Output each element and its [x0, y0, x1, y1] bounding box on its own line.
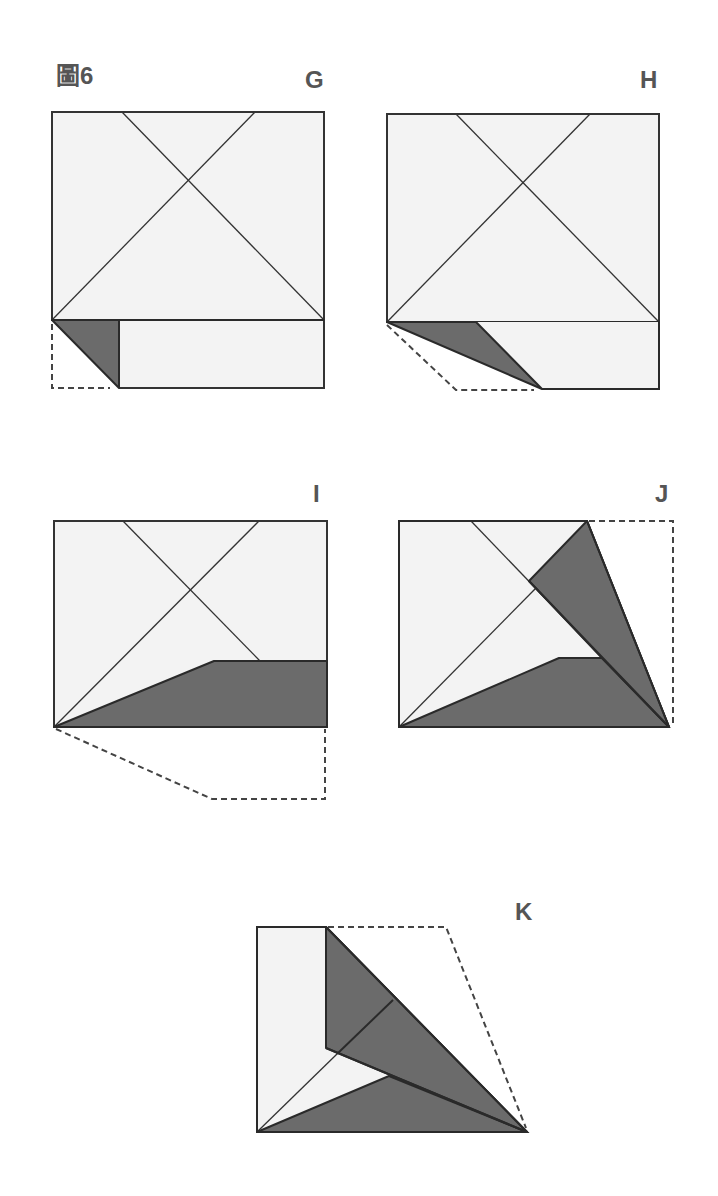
step-j-diagram — [399, 521, 673, 727]
step-i-dashed-outline — [56, 729, 325, 799]
origami-diagram-canvas — [0, 0, 718, 1196]
step-h-diagram — [386, 114, 659, 391]
step-i-diagram — [54, 521, 327, 799]
step-g-diagram — [44, 112, 324, 390]
step-k-diagram — [257, 927, 527, 1132]
